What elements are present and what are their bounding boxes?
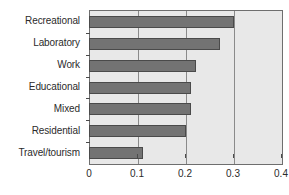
y-axis-label-cell: Work <box>0 54 84 76</box>
x-axis-tick-label: 0.2 <box>178 168 192 179</box>
bar <box>89 16 234 28</box>
bar-row <box>90 77 282 99</box>
y-axis-tick-label: Work <box>57 59 80 70</box>
bar <box>89 103 191 115</box>
bar-row <box>90 55 282 77</box>
bar-row <box>90 33 282 55</box>
x-axis-tick-label: 0.1 <box>130 168 144 179</box>
x-axis-tick <box>137 154 138 158</box>
bar <box>89 82 191 94</box>
bar <box>89 60 196 72</box>
y-axis-tick-label: Travel/tourism <box>18 147 80 158</box>
bar-row <box>90 120 282 142</box>
bar <box>89 147 143 159</box>
x-axis-tick-labels: 00.10.20.30.4 <box>89 168 281 182</box>
y-axis-tick-label: Mixed <box>54 103 80 114</box>
y-axis-tick-label: Residential <box>32 125 80 136</box>
y-axis-tick-label: Laboratory <box>33 37 80 48</box>
bar-chart: Recreational Laboratory Work Educational… <box>0 0 289 195</box>
bar-row <box>90 98 282 120</box>
y-axis-label-cell: Laboratory <box>0 32 84 54</box>
x-axis-tick <box>185 154 186 158</box>
x-axis-tick <box>89 154 90 158</box>
y-axis-label-cell: Educational <box>0 76 84 98</box>
y-axis-label-cell: Travel/tourism <box>0 141 84 163</box>
bar-row <box>90 142 282 164</box>
x-axis-tick-label: 0.3 <box>226 168 240 179</box>
bars-container <box>90 11 282 164</box>
y-axis-label-cell: Recreational <box>0 10 84 32</box>
y-axis-tick-label: Recreational <box>25 15 80 26</box>
x-axis-tick-label: 0.4 <box>274 168 288 179</box>
bar-row <box>90 11 282 33</box>
y-axis-tick-label: Educational <box>29 81 80 92</box>
bar <box>89 38 220 50</box>
x-axis-tick <box>233 154 234 158</box>
x-axis-tick-label: 0 <box>86 168 92 179</box>
y-axis-label-cell: Mixed <box>0 97 84 119</box>
plot-area <box>89 10 283 165</box>
y-axis-label-cell: Residential <box>0 119 84 141</box>
x-axis-tick <box>281 154 282 158</box>
bar <box>89 125 186 137</box>
y-axis-category-labels: Recreational Laboratory Work Educational… <box>0 10 84 163</box>
